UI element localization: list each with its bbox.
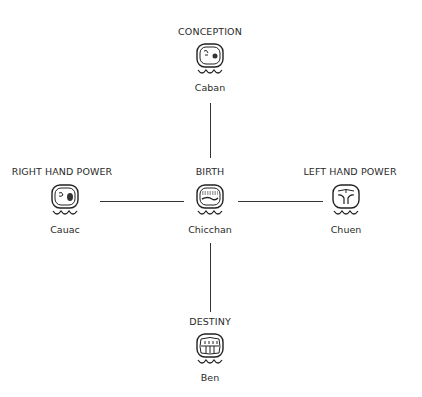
edge-birth-left: [238, 201, 323, 202]
edge-right-birth: [100, 201, 184, 202]
ben-glyph-icon: [194, 333, 226, 367]
chicchan-glyph-icon: [194, 184, 226, 218]
node-day-sign: Ben: [201, 372, 219, 383]
node-day-sign: Chuen: [331, 224, 362, 235]
node-role-label: DESTINY: [189, 316, 231, 327]
node-day-sign: Cauac: [50, 224, 80, 235]
node-role-label: LEFT HAND POWER: [303, 166, 396, 177]
node-role-label: CONCEPTION: [178, 26, 242, 37]
chuen-glyph-icon: [330, 184, 362, 218]
node-day-sign: Chicchan: [188, 224, 232, 235]
cauac-glyph-icon: [49, 184, 81, 218]
caban-glyph-icon: [194, 43, 226, 77]
edge-conception-birth: [210, 103, 211, 158]
node-role-label: BIRTH: [196, 166, 225, 177]
node-role-label: RIGHT HAND POWER: [12, 166, 113, 177]
node-day-sign: Caban: [195, 82, 225, 93]
edge-birth-destiny: [210, 243, 211, 312]
